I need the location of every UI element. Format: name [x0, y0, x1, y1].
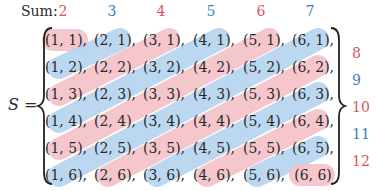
column-sum-4: 4 — [157, 3, 166, 19]
outcome-pair: (6, 1), — [292, 32, 334, 48]
column-sum-2: 2 — [59, 3, 68, 19]
set-name: S = — [8, 95, 37, 114]
outcome-pair: (3, 4), — [143, 113, 185, 129]
outcome-pair: (4, 3), — [193, 86, 235, 102]
outcome-pair: (6, 2), — [292, 59, 334, 75]
outcome-pair: (6, 6) — [294, 167, 332, 183]
column-sum-3: 3 — [108, 3, 117, 19]
outcome-pair: (3, 5), — [143, 140, 185, 156]
outcome-pair: (1, 5), — [45, 140, 87, 156]
outcome-pair: (2, 6), — [94, 167, 136, 183]
outcome-pair: (2, 1), — [94, 32, 136, 48]
outcome-pair: (1, 6), — [45, 167, 87, 183]
outcome-pair: (6, 4), — [292, 113, 334, 129]
outcome-pair: (5, 6), — [243, 167, 285, 183]
column-sum-7: 7 — [306, 3, 315, 19]
outcome-pair: (5, 5), — [243, 140, 285, 156]
outcome-pair: (2, 3), — [94, 86, 136, 102]
outcome-pair: (4, 5), — [193, 140, 235, 156]
outcome-pair: (1, 1), — [45, 32, 87, 48]
outcome-pair: (6, 5), — [292, 140, 334, 156]
outcome-pair: (3, 1), — [143, 32, 185, 48]
set-symbol: S — [8, 95, 19, 114]
outcome-pair: (1, 4), — [45, 113, 87, 129]
row-sum-12: 12 — [352, 153, 370, 169]
outcome-pair: (4, 2), — [193, 59, 235, 75]
outcome-pair: (5, 1), — [243, 32, 285, 48]
outcome-pair: (5, 2), — [243, 59, 285, 75]
row-sum-11: 11 — [352, 126, 370, 142]
outcome-pair: (1, 3), — [45, 86, 87, 102]
outcome-pair: (4, 6), — [193, 167, 235, 183]
column-sum-5: 5 — [207, 3, 216, 19]
outcome-pair: (2, 5), — [94, 140, 136, 156]
outcome-pair: (2, 2), — [94, 59, 136, 75]
outcome-pair: (3, 3), — [143, 86, 185, 102]
outcome-pair: (3, 6), — [143, 167, 185, 183]
outcome-pair: (3, 2), — [143, 59, 185, 75]
outcome-pair: (1, 2), — [45, 59, 87, 75]
outcome-pair: (5, 3), — [243, 86, 285, 102]
outcome-pair: (2, 4), — [94, 113, 136, 129]
outcome-pair: (5, 4), — [243, 113, 285, 129]
outcome-pair: (4, 1), — [193, 32, 235, 48]
equals-sign: = — [24, 95, 37, 114]
outcome-pair: (4, 4), — [193, 113, 235, 129]
outcome-pair: (6, 3), — [292, 86, 334, 102]
row-sum-9: 9 — [352, 72, 361, 88]
column-sum-6: 6 — [257, 3, 266, 19]
sum-label: Sum: — [21, 3, 58, 19]
row-sum-10: 10 — [352, 99, 370, 115]
row-sum-8: 8 — [352, 45, 361, 61]
